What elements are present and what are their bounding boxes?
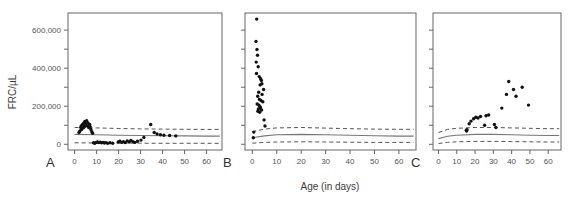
- x-tick-label: 0: [250, 157, 255, 166]
- reference-band-center: [252, 134, 413, 137]
- y-tick-label: 0: [57, 140, 62, 149]
- data-point: [256, 95, 259, 98]
- x-tick-label: 40: [158, 157, 167, 166]
- plot-frame: [433, 13, 561, 150]
- y-axis-title-text: FRC/µL: [7, 74, 18, 109]
- panel-C: 0102030405060C: [411, 13, 561, 170]
- data-point: [469, 119, 472, 122]
- reference-band-center: [75, 134, 220, 136]
- y-tick-label: 600,000: [32, 26, 61, 35]
- x-tick-label: 60: [544, 157, 553, 166]
- data-point: [142, 136, 145, 139]
- reference-band-lower: [252, 142, 413, 143]
- data-point: [500, 106, 503, 109]
- reference-band-upper: [75, 128, 220, 130]
- data-point: [483, 124, 486, 127]
- y-tick-label: 400,000: [32, 64, 61, 73]
- data-point: [139, 138, 142, 141]
- data-point: [256, 54, 259, 57]
- data-point: [257, 65, 260, 68]
- data-point: [255, 60, 258, 63]
- data-point: [260, 93, 263, 96]
- data-point: [507, 80, 510, 83]
- data-point: [252, 136, 255, 139]
- data-point: [111, 142, 114, 145]
- x-tick-label: 60: [394, 157, 403, 166]
- x-tick-label: 20: [297, 157, 306, 166]
- data-point: [159, 133, 162, 136]
- y-tick-label: 200,000: [32, 102, 61, 111]
- reference-band-center: [439, 134, 560, 138]
- panel-group: 0102030405060A0102030405060B010203040506…: [46, 13, 561, 170]
- data-point: [527, 103, 530, 106]
- figure-canvas: FRC/µL 0200,000400,000600,000 0102030405…: [0, 0, 581, 197]
- x-tick-label: 50: [180, 157, 189, 166]
- data-point: [521, 86, 524, 89]
- data-point: [262, 118, 265, 121]
- data-point: [136, 140, 139, 143]
- data-point: [261, 100, 264, 103]
- panel-B: 0102030405060B: [223, 13, 416, 170]
- data-point: [512, 88, 515, 91]
- x-tick-label: 10: [272, 157, 281, 166]
- data-point: [254, 40, 257, 43]
- panel-letter-C: C: [411, 155, 420, 170]
- data-point: [505, 93, 508, 96]
- panel-letter-B: B: [223, 155, 232, 170]
- x-tick-label: 30: [489, 157, 498, 166]
- data-point: [149, 123, 152, 126]
- data-point: [255, 17, 258, 20]
- data-point: [258, 111, 261, 114]
- x-tick-label: 50: [370, 157, 379, 166]
- reference-band-upper: [439, 128, 560, 133]
- data-point: [494, 126, 497, 129]
- reference-band-lower: [439, 141, 560, 143]
- data-point: [174, 134, 177, 137]
- data-point: [168, 134, 171, 137]
- y-axis-title: FRC/µL: [7, 74, 18, 109]
- x-tick-label: 0: [72, 157, 77, 166]
- data-point: [255, 48, 258, 51]
- x-tick-label: 20: [114, 157, 123, 166]
- data-point: [514, 95, 517, 98]
- data-point: [487, 113, 490, 116]
- reference-band-upper: [252, 128, 413, 132]
- data-point: [255, 72, 258, 75]
- data-point: [493, 123, 496, 126]
- x-tick-label: 0: [436, 157, 441, 166]
- x-axis-title-text: Age (in days): [301, 181, 360, 192]
- x-tick-label: 30: [136, 157, 145, 166]
- x-tick-label: 40: [507, 157, 516, 166]
- data-point: [263, 124, 266, 127]
- data-point: [260, 79, 263, 82]
- panel-letter-A: A: [46, 155, 55, 170]
- data-point: [155, 132, 158, 135]
- x-tick-label: 30: [321, 157, 330, 166]
- data-point: [252, 130, 255, 133]
- y-tick-labels: 0200,000400,000600,000: [32, 26, 61, 149]
- data-point: [258, 83, 261, 86]
- x-tick-label: 20: [471, 157, 480, 166]
- panel-A: 0102030405060A: [46, 13, 222, 170]
- x-tick-label: 60: [202, 157, 211, 166]
- plot-frame: [245, 13, 416, 150]
- data-point: [91, 132, 94, 135]
- data-point: [465, 128, 468, 131]
- data-point: [479, 115, 482, 118]
- x-tick-label: 40: [346, 157, 355, 166]
- x-tick-label: 50: [525, 157, 534, 166]
- data-point: [262, 88, 265, 91]
- data-point: [162, 134, 165, 137]
- x-tick-label: 10: [92, 157, 101, 166]
- data-point: [153, 131, 156, 134]
- figure-scatter-panels: FRC/µL 0200,000400,000600,000 0102030405…: [0, 0, 581, 197]
- data-point: [257, 91, 260, 94]
- x-tick-label: 10: [452, 157, 461, 166]
